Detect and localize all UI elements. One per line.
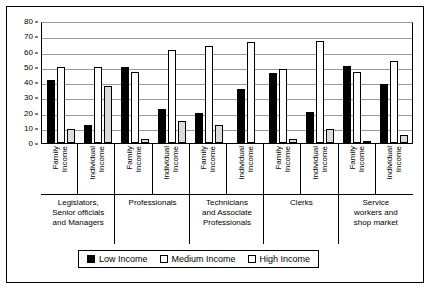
bar-medium-income <box>94 67 102 143</box>
bar-medium-income <box>205 46 213 143</box>
occupation-group <box>116 23 190 143</box>
occupation-label: Clerks <box>264 195 338 236</box>
subgroup-label-line2: Income <box>60 146 69 172</box>
bar-low-income <box>195 113 203 144</box>
bar-medium-income <box>279 69 287 143</box>
subgroup-label-line1: Individual <box>162 146 171 180</box>
bar-low-income <box>343 66 351 143</box>
subgroup-label-line2: Income <box>320 146 329 172</box>
income-type-subgroup <box>375 23 412 143</box>
occupation-label-line: Professionals <box>129 198 177 208</box>
legend-swatch <box>160 255 168 263</box>
occupation-label-line: and Managers <box>52 218 104 228</box>
chart-legend: Low IncomeMedium IncomeHigh Income <box>78 250 319 268</box>
bar-medium-income <box>390 61 398 143</box>
y-axis-tick-label: 10 <box>24 125 33 133</box>
income-type-subgroup <box>301 23 338 143</box>
subgroup-label-cell: FamilyIncome <box>41 144 78 194</box>
bar-medium-income <box>247 42 255 143</box>
occupation-group <box>338 23 412 143</box>
income-type-subgroup <box>227 23 264 143</box>
occupation-label-line: and Associate <box>202 208 252 218</box>
y-axis-tick-label: 70 <box>24 33 33 41</box>
subgroup-label-cell: IndividualIncome <box>301 144 338 194</box>
subgroup-label-line2: Income <box>171 146 180 172</box>
bar-low-income <box>47 80 55 143</box>
bar-low-income <box>306 112 314 143</box>
subgroup-label-cell: FamilyIncome <box>190 144 227 194</box>
bar-low-income <box>158 109 166 143</box>
occupation-group <box>190 23 264 143</box>
subgroup-label-cell: IndividualIncome <box>78 144 115 194</box>
subgroup-label-occ: FamilyIncomeIndividualIncome <box>41 144 115 194</box>
subgroup-label-cell: IndividualIncome <box>227 144 264 194</box>
bar-medium-income <box>168 50 176 143</box>
bar-high-income <box>178 121 186 143</box>
grouped-bar-chart: 80706050403020100 FamilyIncomeIndividual… <box>0 0 430 289</box>
subgroup-label-cell: IndividualIncome <box>376 144 413 194</box>
occupation-group <box>264 23 338 143</box>
subgroup-label-occ: FamilyIncomeIndividualIncome <box>264 144 338 194</box>
subgroup-label-band: FamilyIncomeIndividualIncomeFamilyIncome… <box>41 144 413 194</box>
subgroup-label-cell: FamilyIncome <box>264 144 301 194</box>
subgroup-label-cell: FamilyIncome <box>339 144 376 194</box>
occupation-label: Legislators,Senior officialsand Managers <box>41 195 115 236</box>
legend-item: High Income <box>248 254 311 264</box>
bar-high-income <box>289 139 297 143</box>
y-axis-tick-mark <box>35 67 38 68</box>
plot-area <box>41 22 413 144</box>
y-axis-tick-label: 60 <box>24 49 33 57</box>
subgroup-label-line2: Income <box>208 146 217 172</box>
legend-label: Medium Income <box>172 254 236 264</box>
subgroup-label-line2: Income <box>283 146 292 172</box>
bar-groups <box>42 23 412 143</box>
bar-high-income <box>326 129 334 143</box>
income-type-subgroup <box>42 23 79 143</box>
subgroup-label-line1: Individual <box>311 146 320 180</box>
bar-high-income <box>400 135 408 143</box>
subgroup-label-line1: Family <box>125 146 134 170</box>
subgroup-label-occ: FamilyIncomeIndividualIncome <box>339 144 413 194</box>
y-axis-tick-mark <box>35 83 38 84</box>
subgroup-label-line1: Family <box>348 146 357 170</box>
bar-low-income <box>237 89 245 143</box>
legend-label: High Income <box>260 254 311 264</box>
income-type-subgroup <box>264 23 301 143</box>
occupation-label-line: Clerks <box>290 198 313 208</box>
bar-low-income <box>380 84 388 143</box>
legend-swatch <box>87 255 95 263</box>
income-type-subgroup <box>338 23 375 143</box>
y-axis-tick-label: 0 <box>29 140 33 148</box>
occupation-label-line: Technicians <box>202 198 252 208</box>
legend-swatch <box>248 255 256 263</box>
income-type-subgroup <box>190 23 227 143</box>
bar-low-income <box>84 125 92 143</box>
subgroup-label-line1: Individual <box>88 146 97 180</box>
bar-high-income <box>141 139 149 143</box>
y-axis-tick-mark <box>35 22 38 23</box>
occupation-label-line: Senior officials <box>52 208 104 218</box>
subgroup-label-line2: Income <box>134 146 143 172</box>
bar-low-income <box>269 73 277 143</box>
y-axis-tick-mark <box>35 113 38 114</box>
y-axis-tick-label: 40 <box>24 79 33 87</box>
subgroup-label-occ: FamilyIncomeIndividualIncome <box>115 144 189 194</box>
occupation-label-line: Professionals <box>202 218 252 228</box>
occupation-group <box>42 23 116 143</box>
occupation-label: Serviceworkers andshop market <box>339 195 413 236</box>
occupation-label-band: Legislators,Senior officialsand Managers… <box>41 194 413 236</box>
legend-item: Medium Income <box>160 254 236 264</box>
y-axis-tick-mark <box>35 128 38 129</box>
subgroup-label-line2: Income <box>357 146 366 172</box>
bar-low-income <box>121 67 129 143</box>
income-type-subgroup <box>116 23 153 143</box>
y-axis-tick-mark <box>35 37 38 38</box>
y-axis-tick-label: 20 <box>24 110 33 118</box>
occupation-label: Professionals <box>115 195 189 236</box>
occupation-label: Techniciansand AssociateProfessionals <box>190 195 264 236</box>
subgroup-label-line2: Income <box>97 146 106 172</box>
bar-medium-income <box>57 67 65 143</box>
bar-medium-income <box>316 41 324 143</box>
y-axis-tick-mark <box>35 144 38 145</box>
bar-high-income <box>363 141 371 143</box>
